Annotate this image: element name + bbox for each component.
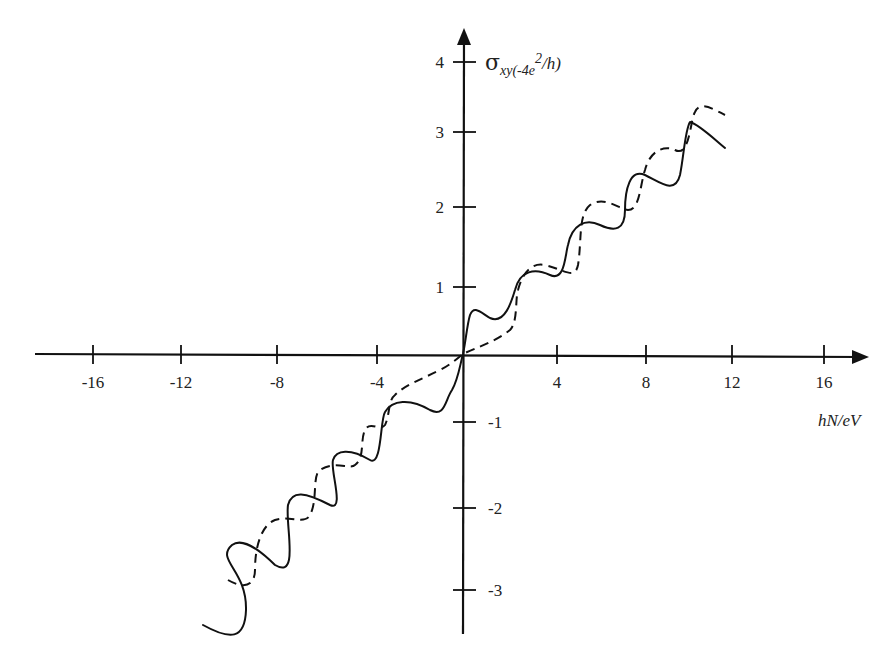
- y-ticks: 4321-1-2-3: [436, 53, 503, 600]
- chart: -16-12-8-4481216 4321-1-2-3 σxy(-4e2/h) …: [0, 0, 894, 664]
- y-axis: [463, 38, 464, 634]
- y-axis-label: σxy(-4e2/h): [485, 50, 561, 79]
- y-tick-label: 3: [436, 123, 445, 142]
- y-label-subscript: xy(-4e: [499, 63, 535, 79]
- x-tick-label: -4: [370, 373, 385, 392]
- x-tick-label: 8: [642, 373, 651, 392]
- x-tick-label: -8: [270, 373, 284, 392]
- y-label-sigma: σ: [485, 50, 500, 75]
- y-tick-label: -3: [488, 581, 502, 600]
- x-tick-label: 12: [724, 373, 741, 392]
- x-axis: [35, 354, 862, 357]
- y-label-tail: /h): [541, 54, 561, 73]
- y-axis-arrow-icon: [457, 28, 471, 45]
- y-label-superscript: 2: [535, 51, 542, 66]
- y-tick-label: 2: [436, 198, 445, 217]
- x-ticks: -16-12-8-4481216: [82, 345, 833, 392]
- x-axis-arrow-icon: [852, 350, 869, 364]
- x-axis-label: hN/eV: [818, 411, 863, 430]
- svg-text:σxy(-4e2/h): σxy(-4e2/h): [485, 50, 561, 79]
- x-tick-label: 16: [816, 373, 833, 392]
- x-tick-label: 4: [553, 373, 562, 392]
- x-tick-label: -16: [82, 373, 105, 392]
- y-tick-label: 1: [436, 278, 445, 297]
- x-tick-label: -12: [170, 373, 193, 392]
- y-tick-label: 4: [436, 53, 445, 72]
- y-tick-label: -2: [488, 499, 502, 518]
- y-tick-label: -1: [488, 413, 502, 432]
